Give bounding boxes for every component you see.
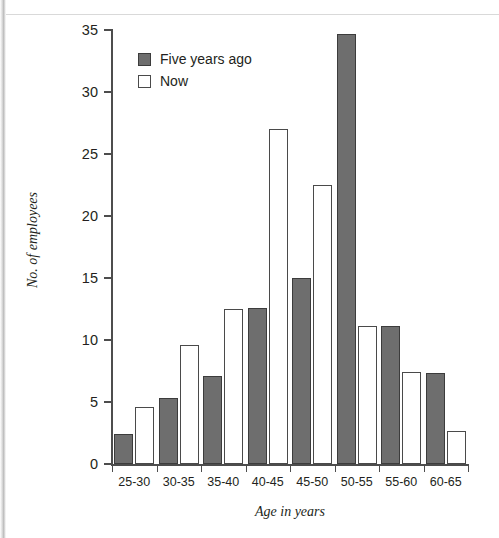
y-axis-tick [104, 339, 112, 340]
x-axis-tick [424, 464, 425, 472]
bar-25-30-series-0 [114, 434, 133, 464]
legend-label: Five years ago [160, 52, 252, 66]
bar-45-50-series-1 [313, 185, 332, 464]
bar-chart-figure: 05101520253035 25-3030-3535-4040-4545-50… [0, 0, 499, 538]
x-axis-tick-label: 60-65 [424, 476, 469, 489]
x-axis-tick [468, 464, 469, 472]
bar-60-65-series-1 [447, 431, 466, 464]
y-axis-tick [104, 401, 112, 402]
bar-30-35-series-1 [180, 345, 199, 464]
x-axis-tick [379, 464, 380, 472]
bar-55-60-series-0 [381, 326, 400, 464]
chart-legend: Five years ago Now [138, 48, 252, 92]
y-axis-tick [104, 29, 112, 30]
empty-white-swatch-icon [138, 75, 151, 88]
x-axis-title: Age in years [112, 504, 468, 520]
legend-label: Now [160, 74, 188, 88]
x-axis-tick-label: 50-55 [335, 476, 380, 489]
y-axis-tick [104, 277, 112, 278]
bar-40-45-series-0 [248, 308, 267, 464]
bar-30-35-series-0 [159, 398, 178, 464]
x-axis-tick [157, 464, 158, 472]
figure-page: 05101520253035 25-3030-3535-4040-4545-50… [0, 0, 499, 538]
y-axis-tick [104, 215, 112, 216]
bar-50-55-series-0 [337, 34, 356, 464]
x-axis-tick-label: 35-40 [201, 476, 246, 489]
bar-35-40-series-1 [224, 309, 243, 464]
bar-25-30-series-1 [135, 407, 154, 464]
y-axis-tick-label: 30 [36, 85, 98, 100]
y-axis-tick-label: 25 [36, 147, 98, 162]
x-axis-tick-label: 25-30 [112, 476, 157, 489]
bar-60-65-series-0 [426, 373, 445, 464]
x-axis-tick-label: 55-60 [379, 476, 424, 489]
x-axis-tick [246, 464, 247, 472]
x-axis-tick-label: 45-50 [290, 476, 335, 489]
bar-40-45-series-1 [269, 129, 288, 464]
y-axis-tick [104, 91, 112, 92]
x-axis-tick-label: 30-35 [157, 476, 202, 489]
y-axis-tick [104, 463, 112, 464]
bar-45-50-series-0 [292, 278, 311, 464]
y-axis-tick-label: 0 [36, 457, 98, 472]
bar-55-60-series-1 [402, 372, 421, 464]
x-axis-tick [112, 464, 113, 472]
y-axis-tick-label: 15 [36, 271, 98, 286]
legend-item-five-years-ago: Five years ago [138, 48, 252, 70]
y-axis-tick [104, 153, 112, 154]
y-axis-tick-label: 5 [36, 395, 98, 410]
y-axis-tick-label: 35 [36, 23, 98, 38]
plot-area [112, 30, 468, 464]
bar-35-40-series-0 [203, 376, 222, 464]
y-axis-tick-label: 20 [36, 209, 98, 224]
x-axis-tick [201, 464, 202, 472]
legend-item-now: Now [138, 70, 252, 92]
x-axis-tick [290, 464, 291, 472]
y-axis-tick-label: 10 [36, 333, 98, 348]
y-axis-title: No. of employees [25, 170, 41, 310]
bar-50-55-series-1 [358, 326, 377, 464]
filled-gray-swatch-icon [138, 53, 151, 66]
x-axis-tick [335, 464, 336, 472]
x-axis-tick-label: 40-45 [246, 476, 291, 489]
